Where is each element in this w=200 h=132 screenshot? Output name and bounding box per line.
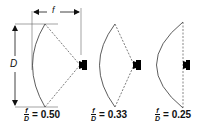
ratio-label-2: f D = 0.33 (91, 107, 127, 122)
reflector-3 (157, 22, 191, 108)
f-over-d-fraction: f D (91, 107, 96, 122)
ratio-label-3: f D = 0.25 (155, 107, 191, 122)
f-over-d-fraction: f D (155, 107, 160, 122)
f-over-d-fraction: f D (24, 107, 29, 122)
ratio-label-1: f D = 0.50 (24, 107, 60, 122)
focal-length-dimension (32, 8, 81, 70)
ratio-value: = 0.50 (32, 109, 60, 120)
feed-horn-icon (79, 60, 87, 70)
diameter-dimension (15, 24, 58, 107)
diameter-label: D (10, 58, 17, 69)
reflector-arc (157, 22, 184, 108)
feed-horn-icon (183, 60, 190, 70)
ratio-value: = 0.33 (99, 109, 127, 120)
reflector-arc (33, 24, 46, 107)
focal-length-label: f (52, 5, 55, 15)
reflector-arc (100, 24, 116, 107)
reflector-1 (33, 24, 88, 107)
feed-horn-icon (133, 60, 141, 70)
ratio-value: = 0.25 (163, 109, 191, 120)
reflector-2 (100, 24, 142, 107)
